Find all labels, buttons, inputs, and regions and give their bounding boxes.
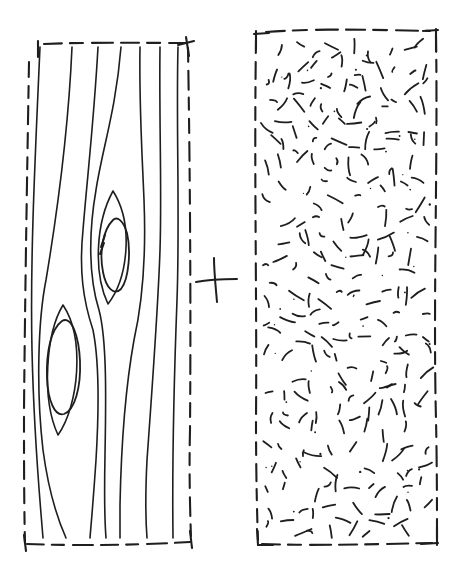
texture-dash bbox=[368, 408, 369, 421]
texture-dash bbox=[390, 49, 393, 55]
texture-dash bbox=[278, 45, 282, 55]
dashed-border-stroke bbox=[44, 43, 186, 44]
texture-dash bbox=[392, 448, 404, 461]
texture-dash bbox=[264, 323, 270, 326]
texture-dash bbox=[293, 126, 297, 138]
ink-speck bbox=[271, 465, 273, 467]
texture-dash bbox=[263, 264, 268, 265]
texture-dash bbox=[263, 441, 271, 447]
texture-dash bbox=[322, 180, 327, 182]
ink-speck bbox=[307, 70, 309, 72]
texture-dash bbox=[270, 283, 277, 285]
texture-dash bbox=[313, 138, 317, 142]
texture-dash bbox=[303, 450, 304, 456]
texture-dash bbox=[328, 74, 332, 78]
texture-dash bbox=[295, 392, 308, 401]
texture-dash bbox=[298, 62, 308, 71]
texture-dash bbox=[392, 67, 394, 72]
ink-speck bbox=[418, 468, 420, 470]
texture-dash bbox=[389, 252, 393, 256]
ink-speck bbox=[293, 299, 295, 301]
texture-dash bbox=[271, 413, 273, 423]
texture-dash bbox=[266, 521, 268, 527]
texture-dash bbox=[382, 290, 390, 292]
corner-tick bbox=[423, 30, 438, 31]
corner-tick bbox=[421, 543, 438, 544]
texture-dash bbox=[328, 446, 332, 455]
ink-speck bbox=[299, 461, 300, 462]
texture-dash bbox=[300, 233, 306, 243]
texture-dash bbox=[284, 74, 288, 79]
texture-dash bbox=[369, 122, 374, 127]
texture-dash bbox=[313, 51, 320, 57]
texture-dash bbox=[297, 42, 304, 47]
texture-dash bbox=[333, 339, 346, 341]
texture-dash bbox=[404, 385, 405, 392]
ink-speck bbox=[353, 296, 354, 297]
texture-dash bbox=[275, 121, 292, 122]
texture-dash bbox=[420, 477, 421, 484]
ink-speck bbox=[402, 174, 403, 175]
texture-dash bbox=[321, 104, 323, 112]
texture-dash bbox=[405, 83, 419, 94]
texture-dash bbox=[273, 256, 287, 262]
texture-dash bbox=[391, 399, 397, 414]
texture-dash bbox=[423, 65, 427, 79]
ink-speck bbox=[407, 232, 409, 234]
texture-dash bbox=[350, 85, 358, 88]
texture-dash bbox=[390, 236, 395, 251]
ink-speck bbox=[385, 151, 387, 153]
texture-dash bbox=[313, 216, 319, 217]
ink-speck bbox=[265, 467, 266, 468]
ink-speck bbox=[366, 128, 368, 130]
texture-dash bbox=[264, 345, 269, 355]
texture-dash bbox=[383, 430, 384, 442]
texture-dash bbox=[369, 520, 384, 524]
dashed-border-stroke bbox=[24, 62, 29, 543]
texture-dash bbox=[325, 168, 332, 171]
texture-dash bbox=[395, 337, 397, 342]
texture-dash bbox=[279, 182, 286, 190]
texture-dash bbox=[344, 80, 347, 92]
texture-dash bbox=[344, 487, 359, 488]
dashed-border-stroke bbox=[266, 30, 430, 32]
texture-dash bbox=[368, 177, 378, 183]
texture-dash bbox=[376, 487, 386, 497]
texture-dash bbox=[394, 312, 400, 313]
texture-dash bbox=[349, 395, 354, 400]
flow-line bbox=[81, 47, 98, 538]
ink-speck bbox=[319, 453, 321, 455]
texture-dash bbox=[410, 71, 415, 75]
texture-dash bbox=[333, 241, 341, 251]
flow-line bbox=[32, 47, 43, 538]
texture-dash bbox=[280, 421, 289, 428]
texture-dash bbox=[309, 121, 317, 129]
flow-line bbox=[173, 47, 178, 538]
texture-dash bbox=[337, 291, 342, 292]
texture-dash bbox=[278, 98, 287, 110]
texture-dash bbox=[408, 132, 417, 134]
texture-dash bbox=[410, 101, 417, 112]
ink-speck bbox=[413, 266, 414, 267]
texture-dash bbox=[312, 345, 316, 361]
texture-dash bbox=[349, 333, 351, 338]
texture-dash bbox=[283, 483, 285, 490]
texture-dash bbox=[378, 206, 385, 207]
texture-dash bbox=[305, 331, 314, 336]
texture-dash bbox=[387, 384, 396, 388]
texture-dash bbox=[341, 219, 343, 230]
texture-dash bbox=[386, 366, 388, 373]
texture-dash bbox=[299, 413, 307, 422]
texture-dash bbox=[387, 139, 399, 140]
texture-dash bbox=[311, 421, 312, 431]
texture-dash bbox=[403, 401, 405, 417]
texture-dash bbox=[330, 525, 332, 538]
texture-dash bbox=[406, 287, 407, 305]
texture-dash bbox=[425, 500, 432, 508]
texture-dash bbox=[369, 484, 374, 488]
texture-dash bbox=[424, 132, 425, 145]
texture-dash bbox=[281, 139, 283, 149]
texture-dash bbox=[280, 317, 295, 322]
texture-dash bbox=[296, 458, 300, 467]
random-dash-texture bbox=[261, 39, 433, 538]
